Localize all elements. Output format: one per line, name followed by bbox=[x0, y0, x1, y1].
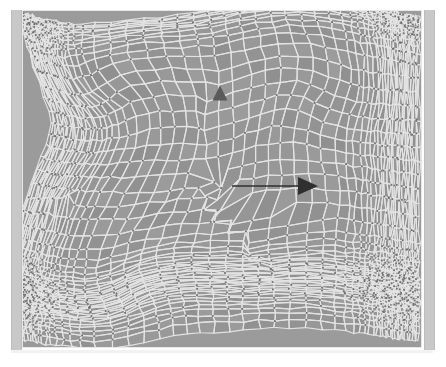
mesh-viewer bbox=[0, 0, 446, 367]
bottom-frame-strip bbox=[11, 350, 433, 353]
mesh-rendering bbox=[22, 10, 422, 348]
left-frame-bar bbox=[11, 10, 22, 350]
mesh-canvas[interactable] bbox=[22, 10, 422, 348]
right-frame-bar bbox=[424, 10, 435, 350]
